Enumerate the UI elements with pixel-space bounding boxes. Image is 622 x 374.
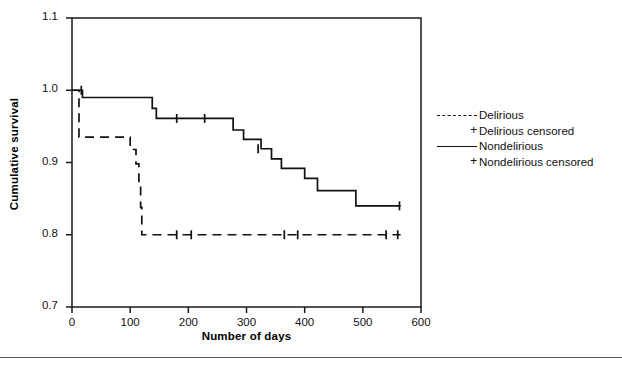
plus-marker-icon: + [437,156,479,168]
y-tick-label: 0.7 [28,299,58,311]
x-tick-label: 600 [401,316,441,328]
legend-label-delirious-censored: Delirious censored [479,124,574,140]
legend-label-nondelirious: Nondelirious [479,139,543,155]
x-tick-label: 400 [285,316,325,328]
solid-line-icon [437,141,479,153]
y-tick-label: 0.8 [28,227,58,239]
y-tick-label: 1.0 [28,82,58,94]
legend-item-nondelirious: Nondelirious [437,139,617,155]
y-tick-label: 0.9 [28,155,58,167]
x-tick-label: 100 [110,316,150,328]
x-tick-label: 200 [168,316,208,328]
y-axis-title: Cumulative survival [4,0,24,307]
x-tick-label: 300 [227,316,267,328]
censored-marks-group [81,86,399,240]
chart-legend: Delirious + Delirious censored Nondeliri… [437,108,617,170]
legend-label-nondelirious-censored: Nondelirious censored [479,155,593,171]
x-tick-label: 0 [52,316,92,328]
footer-rule [0,357,622,358]
x-tick-label: 500 [343,316,383,328]
data-series-group [72,90,401,235]
axis-frame [72,18,421,307]
axis-ticks [66,18,421,313]
dashed-line-icon [437,110,479,122]
series-line-nondelirious [72,90,401,206]
legend-item-delirious-censored: + Delirious censored [437,124,617,140]
legend-item-nondelirious-censored: + Nondelirious censored [437,155,617,171]
y-tick-label: 1.1 [28,10,58,22]
y-axis-title-text: Cumulative survival [8,97,20,209]
survival-chart-figure: Cumulative survival Number of days 0.70.… [0,0,622,374]
x-axis-title: Number of days [72,330,421,342]
legend-label-delirious: Delirious [479,108,524,124]
legend-item-delirious: Delirious [437,108,617,124]
series-line-delirious [72,90,401,235]
plus-marker-icon: + [437,125,479,137]
